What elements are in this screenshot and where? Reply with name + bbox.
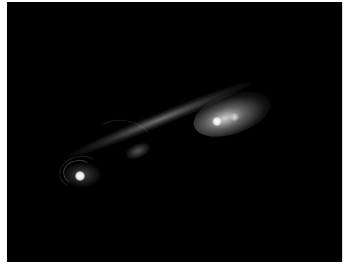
lobe-hotspot-secondary [230, 113, 239, 121]
lobe-hotspot [212, 117, 222, 126]
astronomical-image [7, 2, 343, 262]
core [75, 171, 85, 181]
